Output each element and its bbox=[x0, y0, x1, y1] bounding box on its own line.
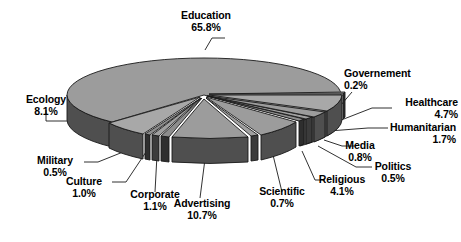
label-healthcare: Healthcare 4.7% bbox=[368, 97, 458, 120]
slice-side-advertising bbox=[172, 137, 248, 163]
label-religious: Religious 4.1% bbox=[311, 174, 373, 197]
label-culture: Culture 1.0% bbox=[57, 176, 111, 199]
label-ecology-name: Ecology bbox=[16, 94, 76, 106]
pie-body bbox=[67, 58, 345, 163]
label-healthcare-value: 4.7% bbox=[368, 109, 458, 121]
label-culture-value: 1.0% bbox=[57, 188, 111, 200]
label-military: Military 0.5% bbox=[27, 155, 83, 178]
label-politics-name: Politics bbox=[364, 161, 422, 173]
label-education: Education 65.8% bbox=[163, 10, 249, 33]
label-humanitarian-name: Humanitarian bbox=[350, 122, 456, 134]
label-religious-name: Religious bbox=[311, 174, 373, 186]
label-governement-value: 0.2% bbox=[344, 80, 436, 92]
label-governement: Governement 0.2% bbox=[344, 68, 436, 91]
label-corporate-value: 1.1% bbox=[122, 201, 188, 213]
label-scientific-name: Scientific bbox=[251, 186, 313, 198]
label-scientific: Scientific 0.7% bbox=[251, 186, 313, 209]
slice-side-governement bbox=[343, 92, 345, 119]
label-ecology-value: 8.1% bbox=[16, 106, 76, 118]
label-scientific-value: 0.7% bbox=[251, 198, 313, 210]
label-corporate-name: Corporate bbox=[122, 189, 188, 201]
label-military-name: Military bbox=[27, 155, 83, 167]
label-governement-name: Governement bbox=[344, 68, 436, 80]
label-education-value: 65.8% bbox=[163, 22, 249, 34]
slice-side-culture bbox=[152, 135, 159, 161]
label-ecology: Ecology 8.1% bbox=[16, 94, 76, 117]
leader-advertising bbox=[200, 159, 205, 198]
slice-side-corporate bbox=[161, 136, 169, 162]
label-education-name: Education bbox=[163, 10, 249, 22]
label-healthcare-name: Healthcare bbox=[368, 97, 458, 109]
slice-side-media bbox=[306, 117, 312, 144]
pie-chart: Education 65.8% Governement 0.2% Healthc… bbox=[0, 0, 461, 242]
label-corporate: Corporate 1.1% bbox=[122, 189, 188, 212]
label-military-value: 0.5% bbox=[27, 167, 83, 179]
label-media-name: Media bbox=[337, 140, 383, 152]
leader-education bbox=[205, 38, 225, 50]
label-religious-value: 4.1% bbox=[311, 186, 373, 198]
slice-side-politics bbox=[299, 119, 304, 146]
slice-side-scientific bbox=[251, 135, 258, 161]
slice-side-military bbox=[145, 134, 150, 160]
